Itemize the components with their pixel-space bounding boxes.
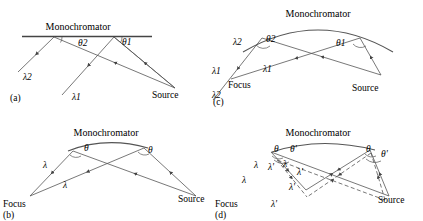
panel-d-theta-prime-left-label: θ' (290, 144, 298, 154)
panel-d-caption: (d) (215, 210, 226, 221)
panel-d-theta-prime-right-label: θ' (381, 149, 389, 159)
panel-b-focus-label: Focus (3, 199, 26, 209)
panel-a-lambda1-label: λ1 (71, 92, 81, 102)
panel-c-lambda2-upper-label: λ2 (232, 37, 242, 47)
panel-d-lambda-prime-c-label: λ' (288, 182, 296, 192)
panel-d-monochromator-title: Monochromator (286, 127, 352, 138)
panel-d-lambda-prime-d-label: λ' (270, 199, 278, 209)
panel-c-theta2-label: θ2 (266, 34, 276, 44)
panel-d-lambda-prime-a-label: λ' (267, 162, 275, 172)
panel-c-monochromator-title: Monochromator (286, 8, 352, 19)
panel-c-theta1-label: θ1 (336, 38, 345, 48)
panel-c-caption: (c) (213, 97, 224, 108)
panel-c-focus-label: Focus (228, 80, 251, 90)
panel-b-caption: (b) (3, 210, 14, 221)
panel-a-monochromator-title: Monochromator (46, 21, 112, 32)
panel-b-theta-right-label: θ (148, 145, 153, 155)
panel-c-lambda1-mid-label: λ1 (262, 64, 272, 74)
panel-b-theta-left-label: θ (84, 143, 89, 153)
panel-b-lambda-lower-label: λ (62, 180, 67, 190)
panel-b-lambda-upper-label: λ (42, 160, 47, 170)
panel-c-source-label: Source (352, 83, 378, 93)
panel-d-lambda-c-label: λ (241, 175, 246, 185)
panel-d-source-label: Source (378, 195, 404, 205)
panel-c-lambda1-left-label: λ1 (211, 66, 221, 76)
panel-d-lambda-b-label: λ (282, 159, 287, 169)
panel-a-theta1-label: θ1 (122, 37, 131, 47)
panel-d-focus-label: Focus (215, 199, 238, 209)
panel-d-lambda-prime-b-label: λ' (296, 167, 304, 177)
panel-a-lambda2-label: λ2 (22, 72, 32, 82)
panel-a-caption: (a) (10, 93, 21, 104)
monochromator-figure: Monochromator θ2 θ1 λ2 λ1 Source (a) (0, 0, 423, 221)
panel-a-source-label: Source (152, 90, 178, 100)
panel-b-monochromator-title: Monochromator (74, 127, 140, 138)
panel-d-theta-left-label: θ (274, 144, 279, 154)
panel-d-theta-right-label: θ (366, 144, 371, 154)
panel-b-source-label: Source (178, 194, 204, 204)
panel-a-theta2-label: θ2 (78, 38, 88, 48)
panel-d-lambda-a-label: λ (253, 160, 258, 170)
